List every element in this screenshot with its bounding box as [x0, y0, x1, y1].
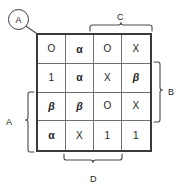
bracket-label-c: C: [117, 13, 124, 22]
grid-cell-r2c3: X: [94, 64, 122, 93]
diagram-canvas: A O α O X 1 α X β β β O X α X 1 1 C B A …: [0, 0, 184, 190]
grid-cell-r3c4: X: [122, 93, 150, 122]
callout-label: A: [15, 15, 21, 25]
grid-cell-r4c4: 1: [122, 121, 150, 150]
grid-cell-r4c2: X: [66, 121, 94, 150]
bracket-label-d: D: [90, 175, 97, 184]
bracket-right-b: [154, 62, 163, 122]
grid-cell-r1c3: O: [94, 35, 122, 64]
bracket-label-a: A: [6, 118, 12, 127]
value-grid: O α O X 1 α X β β β O X α X 1 1: [36, 33, 152, 152]
bracket-label-b: B: [168, 88, 174, 97]
grid-cell-r3c2: β: [66, 93, 94, 122]
grid-cell-r2c4: β: [122, 64, 150, 93]
grid-cell-r4c1: α: [38, 121, 66, 150]
grid-cell-r3c3: O: [94, 93, 122, 122]
grid-cell-r1c4: X: [122, 35, 150, 64]
grid-cell-r2c1: 1: [38, 64, 66, 93]
grid-cell-r2c2: α: [66, 64, 94, 93]
bracket-left-a: [26, 92, 35, 152]
grid-cell-r1c1: O: [38, 35, 66, 64]
grid-cell-r1c2: α: [66, 35, 94, 64]
bracket-top-c: [90, 23, 152, 32]
circled-callout-a: A: [8, 9, 29, 30]
bracket-bottom-d: [64, 154, 122, 163]
grid-cell-r4c3: 1: [94, 121, 122, 150]
grid-cell-r3c1: β: [38, 93, 66, 122]
